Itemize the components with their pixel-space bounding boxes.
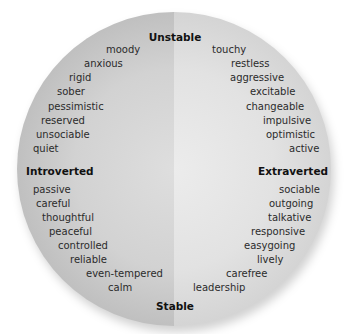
trait-word: reliable	[70, 254, 107, 266]
trait-word: easygoing	[244, 240, 295, 252]
trait-word: leadership	[193, 282, 245, 294]
trait-word: quiet	[33, 143, 59, 155]
trait-word: calm	[108, 282, 132, 294]
axis-label-introverted: Introverted	[26, 165, 94, 177]
axis-label-stable: Stable	[156, 300, 194, 312]
trait-word: thoughtful	[42, 212, 94, 224]
trait-word: even-tempered	[86, 268, 163, 280]
trait-word: unsociable	[36, 129, 90, 141]
trait-word: reserved	[41, 115, 85, 127]
axis-label-extraverted: Extraverted	[258, 165, 328, 177]
trait-word: careful	[36, 198, 70, 210]
trait-word: responsive	[251, 226, 305, 238]
trait-word: controlled	[58, 240, 108, 252]
trait-word: touchy	[212, 44, 246, 56]
trait-word: peaceful	[49, 226, 92, 238]
trait-word: talkative	[268, 212, 311, 224]
trait-word: outgoing	[269, 198, 313, 210]
trait-word: passive	[33, 184, 71, 196]
trait-word: moody	[106, 44, 140, 56]
trait-word: carefree	[226, 268, 267, 280]
trait-word: lively	[257, 254, 283, 266]
trait-word: excitable	[250, 86, 295, 98]
trait-word: sober	[57, 86, 85, 98]
trait-word: pessimistic	[48, 101, 104, 113]
trait-word: changeable	[246, 101, 304, 113]
trait-word: rigid	[69, 72, 91, 84]
trait-word: aggressive	[230, 72, 284, 84]
trait-word: restless	[231, 58, 270, 70]
trait-word: anxious	[84, 58, 123, 70]
trait-word: impulsive	[263, 115, 311, 127]
trait-word: optimistic	[266, 129, 315, 141]
axis-label-unstable: Unstable	[149, 31, 202, 43]
trait-word: sociable	[279, 184, 320, 196]
trait-word: active	[289, 143, 319, 155]
